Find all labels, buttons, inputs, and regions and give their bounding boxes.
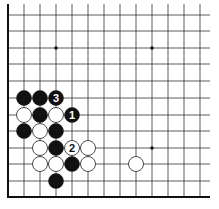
white-stone xyxy=(81,141,96,156)
black-stone-3: 3 xyxy=(49,91,64,106)
star-point xyxy=(150,146,154,150)
move-number-label: 2 xyxy=(69,142,75,154)
move-number-label: 3 xyxy=(53,92,59,104)
go-board: 312 xyxy=(0,0,219,209)
white-stone xyxy=(33,124,48,139)
white-stone xyxy=(129,157,144,172)
black-stone xyxy=(17,91,32,106)
white-stone-2: 2 xyxy=(65,141,80,156)
black-stone xyxy=(49,174,64,189)
black-stone xyxy=(33,91,48,106)
white-stone xyxy=(33,157,48,172)
star-point xyxy=(54,46,58,50)
white-stone xyxy=(49,157,64,172)
black-stone xyxy=(33,108,48,123)
black-stone-1: 1 xyxy=(65,108,80,123)
black-stone xyxy=(65,157,80,172)
black-stone xyxy=(17,124,32,139)
stones-layer: 312 xyxy=(17,91,144,189)
black-stone xyxy=(49,141,64,156)
white-stone xyxy=(49,108,64,123)
star-point xyxy=(150,46,154,50)
white-stone xyxy=(17,108,32,123)
move-number-label: 1 xyxy=(69,109,75,121)
white-stone xyxy=(81,157,96,172)
white-stone xyxy=(33,141,48,156)
black-stone xyxy=(49,124,64,139)
